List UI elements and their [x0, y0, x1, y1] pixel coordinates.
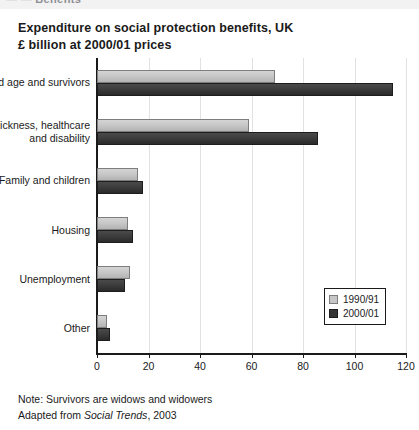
x-tick-label-100: 100 — [346, 360, 364, 372]
x-tick-0 — [97, 353, 98, 358]
gridline-80 — [303, 58, 304, 353]
category-label-line: Family and children — [0, 174, 90, 186]
bar-group-1: Old age and survivors — [97, 70, 406, 96]
x-tick-label-120: 120 — [397, 360, 415, 372]
bar-3-1990-91 — [97, 168, 138, 181]
chart-subtitle: £ billion at 2000/01 prices — [18, 37, 408, 54]
gridline-120 — [406, 58, 407, 353]
bar-2-1990-91 — [97, 119, 249, 132]
legend-swatch-1990-91 — [329, 295, 338, 304]
legend-swatch-2000-01 — [329, 309, 338, 318]
bar-1-1990-91 — [97, 70, 275, 83]
bar-1-2000-01 — [97, 83, 393, 96]
x-tick-label-80: 80 — [297, 360, 309, 372]
bar-6-2000-01 — [97, 328, 110, 341]
header-fragment-main: Benefits — [35, 0, 81, 5]
header-fragment-text: — — Benefits — [6, 0, 81, 5]
x-tick-100 — [355, 353, 356, 358]
chart-title-line1: Expenditure on social protection benefit… — [18, 21, 293, 35]
y-axis-line — [96, 58, 98, 353]
footnote-source-suffix: , 2003 — [147, 409, 176, 421]
chart-footnotes: Note: Survivors are widows and widowers … — [18, 391, 408, 423]
gridline-60 — [252, 58, 253, 353]
x-tick-label-0: 0 — [94, 360, 100, 372]
category-label-line: Old age and survivors — [0, 76, 90, 88]
x-tick-20 — [149, 353, 150, 358]
bar-4-1990-91 — [97, 217, 128, 230]
legend-label-2000-01: 2000/01 — [343, 308, 379, 319]
footnote-source-title: Social Trends — [84, 409, 147, 421]
gridline-20 — [149, 58, 150, 353]
category-label-3: Family and children — [0, 174, 90, 187]
gridline-40 — [200, 58, 201, 353]
category-label-1: Old age and survivors — [0, 76, 90, 89]
legend-label-1990-91: 1990/91 — [343, 294, 379, 305]
bar-5-2000-01 — [97, 279, 125, 292]
x-tick-label-20: 20 — [143, 360, 155, 372]
chart-legend: 1990/91 2000/01 — [324, 288, 386, 325]
header-fragment-dim: — — — [6, 0, 32, 5]
category-label-6: Other — [64, 322, 90, 335]
legend-item-2000-01: 2000/01 — [329, 306, 379, 320]
bar-group-4: Housing — [97, 217, 406, 243]
category-label-line: Other — [64, 322, 90, 334]
category-label-line: Housing — [51, 224, 90, 236]
bar-6-1990-91 — [97, 315, 107, 328]
chart-title: Expenditure on social protection benefit… — [18, 20, 408, 54]
x-tick-label-40: 40 — [194, 360, 206, 372]
bar-group-3: Family and children — [97, 168, 406, 194]
category-label-4: Housing — [51, 224, 90, 237]
bar-4-2000-01 — [97, 230, 133, 243]
bar-5-1990-91 — [97, 266, 130, 279]
x-axis-cap-left — [96, 346, 97, 353]
bar-3-2000-01 — [97, 181, 143, 194]
x-tick-label-60: 60 — [246, 360, 258, 372]
x-tick-80 — [303, 353, 304, 358]
page-header-strip: — — Benefits — [0, 0, 419, 9]
bar-group-2: Sickness, healthcareand disability — [97, 119, 406, 145]
x-tick-120 — [406, 353, 407, 358]
footnote-source-prefix: Adapted from — [18, 409, 84, 421]
category-label-line: Sickness, healthcare — [0, 119, 90, 131]
bar-2-2000-01 — [97, 132, 318, 145]
footnote-source: Adapted from Social Trends, 2003 — [18, 407, 408, 423]
category-label-line: and disability — [29, 132, 90, 144]
legend-item-1990-91: 1990/91 — [329, 292, 379, 306]
category-label-5: Unemployment — [19, 273, 90, 286]
category-label-2: Sickness, healthcareand disability — [0, 119, 90, 145]
x-tick-40 — [200, 353, 201, 358]
x-tick-60 — [252, 353, 253, 358]
footnote-note: Note: Survivors are widows and widowers — [18, 391, 408, 407]
category-label-line: Unemployment — [19, 273, 90, 285]
